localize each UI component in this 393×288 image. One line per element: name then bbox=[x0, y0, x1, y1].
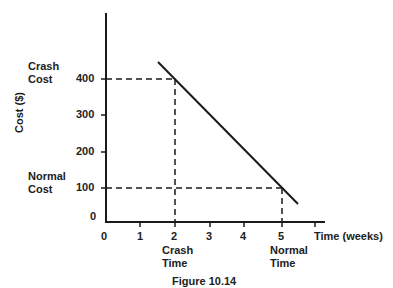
y-tick-100: 100 bbox=[76, 181, 94, 193]
crash-cost-label: Crash Cost bbox=[28, 60, 59, 86]
x-tick-1: 1 bbox=[137, 230, 143, 242]
y-tick-400: 400 bbox=[76, 72, 94, 84]
cost-time-line bbox=[158, 62, 298, 204]
figure-caption: Figure 10.14 bbox=[172, 275, 236, 288]
x-tick-2: 2 bbox=[171, 230, 177, 242]
crash-time-label: Crash Time bbox=[162, 244, 193, 270]
x-tick-4: 4 bbox=[240, 230, 246, 242]
y-tick-300: 300 bbox=[76, 108, 94, 120]
x-tick-5: 5 bbox=[278, 230, 284, 242]
x-tick-0: 0 bbox=[101, 230, 107, 242]
y-axis-label: Cost ($) bbox=[13, 92, 25, 133]
x-axis-label: Time (weeks) bbox=[314, 230, 383, 242]
x-tick-3: 3 bbox=[206, 230, 212, 242]
normal-time-label: Normal Time bbox=[270, 244, 308, 270]
y-tick-0: 0 bbox=[90, 210, 96, 222]
y-tick-200: 200 bbox=[76, 145, 94, 157]
normal-cost-label: Normal Cost bbox=[28, 170, 66, 196]
